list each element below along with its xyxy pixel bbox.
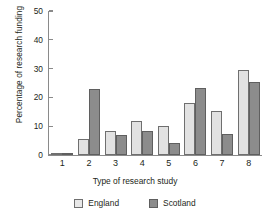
y-tick-label: 10 <box>34 120 43 132</box>
y-tick-label: 30 <box>34 63 43 75</box>
y-tick-label: 40 <box>34 34 43 46</box>
legend-label: Scotland <box>163 198 196 208</box>
x-tick-label: 2 <box>76 158 103 168</box>
bar-group <box>129 11 156 155</box>
x-tick-label: 3 <box>102 158 129 168</box>
bar-scotland-5[interactable] <box>169 143 180 155</box>
bar-scotland-8[interactable] <box>249 82 260 155</box>
bar-group <box>235 11 262 155</box>
bar-scotland-3[interactable] <box>116 135 127 155</box>
legend-item-england[interactable]: England <box>74 198 119 208</box>
bar-scotland-6[interactable] <box>195 88 206 155</box>
bar-chart: Percentage of research funding 010203040… <box>0 0 270 220</box>
bar-england-8[interactable] <box>238 70 249 155</box>
x-axis-tick-labels: 12345678 <box>49 158 262 168</box>
legend-item-scotland[interactable]: Scotland <box>149 198 196 208</box>
x-tick-label: 7 <box>209 158 236 168</box>
bar-england-6[interactable] <box>184 103 195 155</box>
bar-group <box>102 11 129 155</box>
bar-scotland-4[interactable] <box>142 131 153 155</box>
legend-swatch-england <box>74 199 83 208</box>
bar-scotland-7[interactable] <box>222 134 233 155</box>
legend-swatch-scotland <box>149 199 158 208</box>
bar-england-2[interactable] <box>78 139 89 155</box>
x-axis-title: Type of research study <box>0 176 270 186</box>
x-tick-label: 8 <box>235 158 262 168</box>
bar-england-7[interactable] <box>211 111 222 155</box>
bar-england-5[interactable] <box>158 126 169 155</box>
bar-group <box>209 11 236 155</box>
x-axis-line <box>48 155 262 156</box>
bar-group <box>182 11 209 155</box>
bar-england-4[interactable] <box>131 121 142 155</box>
chart-legend: EnglandScotland <box>0 198 270 208</box>
x-tick-label: 4 <box>129 158 156 168</box>
x-tick-label: 5 <box>156 158 183 168</box>
bar-group <box>76 11 103 155</box>
y-tick-label: 20 <box>34 91 43 103</box>
x-tick-label: 6 <box>182 158 209 168</box>
plot-area: 01020304050 <box>49 11 262 155</box>
legend-label: England <box>88 198 119 208</box>
bar-groups <box>49 11 262 155</box>
y-tick-label: 50 <box>34 5 43 17</box>
bar-scotland-2[interactable] <box>89 89 100 155</box>
bar-england-1[interactable] <box>51 153 62 155</box>
bar-group <box>156 11 183 155</box>
y-axis-title: Percentage of research funding <box>15 0 24 140</box>
bar-group <box>49 11 76 155</box>
bar-england-3[interactable] <box>105 131 116 155</box>
bar-scotland-1[interactable] <box>62 153 73 155</box>
y-tick-label: 0 <box>38 149 43 161</box>
x-tick-label: 1 <box>49 158 76 168</box>
